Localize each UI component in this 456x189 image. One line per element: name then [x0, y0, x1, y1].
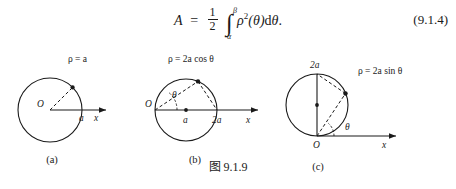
figure-page: A = 1 2 ∫ β α ρ2(θ)dθ. (9.1.4) [0, 0, 456, 189]
formula-equals: = [190, 13, 198, 29]
diameter-label-b: 2a [212, 115, 222, 125]
formula-period: . [278, 13, 282, 29]
area-formula: A = 1 2 ∫ β α ρ2(θ)dθ. [0, 6, 456, 34]
integrand-rho: ρ [237, 13, 244, 29]
chord-dashed-b [198, 81, 217, 110]
center-dot-c [315, 103, 319, 107]
origin-label-b: O [145, 99, 152, 109]
origin-label-a: O [37, 99, 44, 109]
theta-arc-c [329, 123, 335, 136]
diagram-b: O θ a 2a x ρ = 2a cos θ [145, 46, 305, 166]
x-axis-arrowhead-a [99, 107, 106, 113]
x-axis-arrowhead-c [389, 133, 396, 139]
theta-label-b: θ [172, 90, 177, 100]
equation-label-c: ρ = 2a sin θ [358, 66, 403, 76]
differential-dtheta: dθ [265, 13, 279, 29]
formula-row: A = 1 2 ∫ β α ρ2(θ)dθ. (9.1.4) [0, 6, 456, 40]
equation-number: (9.1.4) [413, 12, 448, 28]
origin-label-c: O [313, 140, 320, 150]
axis-label-a: x [93, 113, 99, 123]
axis-label-b: x [245, 115, 251, 125]
fraction-numerator: 1 [208, 6, 218, 19]
diagrams-container: O a x ρ = a O θ a 2a x ρ = 2a cos θ [0, 46, 456, 166]
equation-label-b: ρ = 2a cos θ [168, 54, 214, 64]
axis-label-c: x [381, 140, 387, 150]
point-on-circle-a [71, 85, 75, 89]
equation-label-a: ρ = a [68, 54, 88, 64]
radius-dashed-a [50, 87, 73, 110]
theta-glyph: θ [272, 13, 279, 28]
center-dot-b [184, 108, 188, 112]
integral-upper-limit: β [233, 8, 237, 14]
point-on-circle-c [343, 91, 347, 95]
integrand-argument: (θ) [248, 13, 264, 29]
one-half-fraction: 1 2 [208, 6, 218, 32]
theta-label-c: θ [345, 122, 350, 132]
formula-lhs: A [174, 13, 183, 29]
radius-vector-dashed-c [317, 94, 346, 137]
center-label-b: a [183, 115, 188, 125]
fraction-denominator: 2 [208, 19, 218, 33]
point-on-circle-b [196, 79, 200, 83]
diameter-label-c: 2a [310, 60, 320, 70]
integral-sign-group: ∫ β α [226, 14, 233, 33]
radius-label-a: a [79, 113, 84, 123]
diagram-c: 2a θ O x ρ = 2a sin θ [288, 46, 456, 166]
diagram-a: O a x ρ = a [0, 46, 150, 166]
integral-lower-limit: α [227, 34, 231, 40]
x-axis-arrowhead-b [251, 107, 258, 113]
figure-caption: 图 9.1.9 [0, 157, 456, 175]
